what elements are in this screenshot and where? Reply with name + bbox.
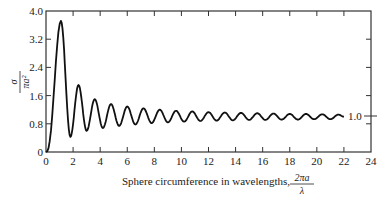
x-tick-label: 2 [70,155,76,167]
x-tick-label: 16 [257,155,269,167]
x-tick-label: 8 [152,155,158,167]
y-tick-label: 3.2 [29,33,43,45]
y-label-numerator: σ [8,78,19,84]
x-tick-label: 10 [176,155,188,167]
x-label-denominator: λ [299,185,305,196]
x-tick-label: 12 [203,155,214,167]
y-axis-label: σ πa² [8,71,31,93]
y-axis-ticks: 00.81.62.43.24.0 [29,5,371,158]
annotation-label: 1.0 [348,110,362,122]
x-tick-label: 18 [284,155,296,167]
x-tick-label: 24 [366,155,378,167]
x-axis-label: Sphere circumference in wavelengths, 2πa… [122,172,314,196]
x-axis-ticks: 024681012141618202224 [43,11,377,167]
chart: 024681012141618202224 00.81.62.43.24.0 1… [0,0,386,198]
x-tick-label: 14 [230,155,242,167]
data-line [46,21,344,152]
plot-frame [46,11,371,152]
asymptote-annotation: 1.0 [348,110,377,122]
x-tick-label: 4 [97,155,103,167]
y-tick-label: 0.8 [29,118,43,130]
y-tick-label: 2.4 [29,61,43,73]
x-tick-label: 0 [43,155,49,167]
x-tick-label: 20 [311,155,323,167]
y-tick-label: 1.6 [29,90,43,102]
y-label-denominator: πa² [20,74,31,88]
x-tick-label: 22 [338,155,349,167]
x-label-text: Sphere circumference in wavelengths, [122,175,290,187]
y-tick-label: 4.0 [29,5,43,17]
y-tick-label: 0 [38,146,44,158]
x-tick-label: 6 [125,155,131,167]
x-label-numerator: 2πa [294,172,309,183]
